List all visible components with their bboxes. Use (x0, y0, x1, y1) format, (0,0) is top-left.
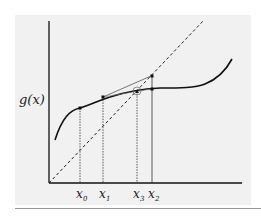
point-x1 (102, 96, 105, 99)
x-label-x2: x 2 (148, 187, 160, 203)
svg-text:x: x (99, 187, 106, 201)
x-label-x0: x 0 (76, 187, 88, 203)
svg-text:x: x (148, 187, 155, 201)
svg-text:3: 3 (140, 195, 145, 203)
bottom-divider (15, 208, 261, 209)
svg-text:x: x (133, 187, 140, 201)
x-label-x1: x 1 (99, 187, 110, 203)
point-x0 (79, 107, 82, 110)
svg-text:0: 0 (83, 195, 88, 203)
svg-text:2: 2 (154, 195, 160, 203)
x-label-x3: x 3 (133, 187, 145, 203)
fixed-point-diagram: g(x) x 0 x 1 x 3 x 2 (0, 0, 261, 217)
point-x2 (151, 88, 154, 91)
svg-text:1: 1 (106, 195, 110, 203)
y-axis-label: g(x) (19, 92, 45, 107)
secant-line-2 (103, 89, 151, 97)
secant-line (103, 76, 151, 97)
identity-line (49, 20, 204, 183)
point-secant (151, 75, 154, 78)
g-curve (55, 59, 232, 140)
svg-text:x: x (76, 187, 83, 201)
